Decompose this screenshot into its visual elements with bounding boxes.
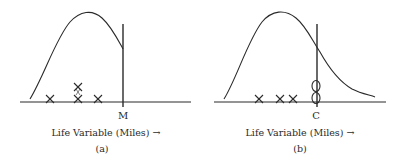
panel-b-axis-label: Life Variable (Miles) →	[246, 127, 355, 138]
panel-b-caption: (b)	[293, 143, 307, 154]
panel-b-censored-o	[312, 81, 320, 104]
panel-a-caption: (a)	[95, 143, 108, 154]
panel-b-distribution-curve	[224, 12, 375, 99]
panel-a	[20, 12, 191, 107]
diagram-canvas: M Life Variable (Miles) → (a) C Life Var…	[0, 0, 404, 162]
panel-a-cutoff-label: M	[118, 110, 128, 121]
panel-a-failure-x-2	[74, 83, 82, 103]
panel-b-cutoff-label: C	[312, 110, 320, 121]
panel-b	[214, 12, 386, 107]
panel-a-axis-label: Life Variable (Miles) →	[52, 127, 161, 138]
